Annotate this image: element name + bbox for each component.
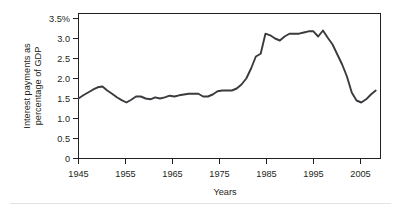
chart-figure: 3.5% 3.0 2.5 2.0 1.5 1.0 0.5 0 1945 1955… <box>0 0 401 208</box>
y-axis-title-line1: Interest payments as <box>22 43 32 129</box>
y-tick-label-0: 0 <box>65 154 70 164</box>
x-tick-label-1955: 1955 <box>115 169 135 179</box>
y-axis-tick-labels: 3.5% 3.0 2.5 2.0 1.5 1.0 0.5 0 <box>49 14 70 164</box>
x-tick-label-1985: 1985 <box>256 169 276 179</box>
y-tick-label-1-0: 1.0 <box>57 114 70 124</box>
y-tick-label-1-5: 1.5 <box>57 94 70 104</box>
footer-divider <box>10 203 391 204</box>
y-tick-label-2-0: 2.0 <box>57 74 70 84</box>
y-tick-label-3-5: 3.5% <box>49 14 70 24</box>
x-axis-title: Years <box>213 187 237 197</box>
y-tick-label-2-5: 2.5 <box>57 54 70 64</box>
y-axis-title: Interest payments as percentage of GDP <box>22 43 43 129</box>
line-chart: 3.5% 3.0 2.5 2.0 1.5 1.0 0.5 0 1945 1955… <box>0 0 401 208</box>
y-tick-label-3-0: 3.0 <box>57 34 70 44</box>
y-axis-ticks <box>73 19 79 159</box>
plot-frame <box>79 14 381 159</box>
x-axis-tick-labels: 1945 1955 1965 1975 1985 1995 2005 <box>68 169 370 179</box>
y-axis-title-line2: percentage of GDP <box>33 47 43 126</box>
x-tick-label-2005: 2005 <box>350 169 370 179</box>
x-tick-label-1975: 1975 <box>209 169 229 179</box>
x-tick-label-1965: 1965 <box>162 169 182 179</box>
x-tick-label-1995: 1995 <box>303 169 323 179</box>
x-axis-ticks <box>79 159 361 165</box>
y-tick-label-0-5: 0.5 <box>57 134 70 144</box>
x-tick-label-1945: 1945 <box>68 169 88 179</box>
